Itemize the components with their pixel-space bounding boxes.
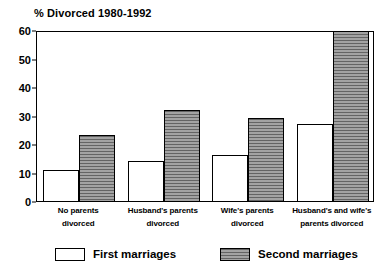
bar-first-marriages[interactable]	[212, 155, 248, 201]
bar-group	[291, 32, 375, 201]
y-axis-tick-label: 60	[19, 26, 31, 37]
legend-swatch-first-marriages	[55, 248, 85, 261]
bar-second-marriages[interactable]	[164, 110, 200, 201]
y-axis-tick-label: 40	[19, 83, 31, 94]
bar-group	[206, 32, 291, 201]
chart-legend: First marriages Second marriages	[36, 243, 374, 265]
bar-second-marriages[interactable]	[248, 118, 284, 201]
plot-area	[36, 31, 374, 202]
y-axis: 0102030405060	[0, 31, 36, 202]
x-axis-category-label: Husband's and wife'sparents divorced	[278, 205, 387, 230]
bar-group	[122, 32, 207, 201]
category-label-line: parents divorced	[278, 218, 387, 231]
y-axis-tick-label: 20	[19, 140, 31, 151]
legend-swatch-second-marriages	[220, 248, 250, 261]
legend-label-second-marriages: Second marriages	[258, 248, 358, 260]
bar-second-marriages[interactable]	[79, 135, 115, 201]
bar-first-marriages[interactable]	[128, 161, 164, 201]
legend-item-first-marriages[interactable]: First marriages	[55, 248, 176, 261]
chart-title: % Divorced 1980-1992	[34, 7, 152, 19]
legend-item-second-marriages[interactable]: Second marriages	[220, 248, 358, 261]
bar-second-marriages[interactable]	[333, 31, 369, 201]
y-axis-tick-label: 50	[19, 54, 31, 65]
y-axis-tick-label: 30	[19, 111, 31, 122]
category-label-line: Husband's and wife's	[278, 205, 387, 218]
legend-label-first-marriages: First marriages	[93, 248, 176, 260]
x-axis-category-labels: No parentsdivorcedHusband's parentsdivor…	[36, 205, 374, 237]
bar-group	[37, 32, 122, 201]
bar-first-marriages[interactable]	[297, 124, 333, 201]
divorce-rate-bar-chart: % Divorced 1980-1992 0102030405060 No pa…	[0, 0, 388, 271]
y-axis-tick-label: 10	[19, 168, 31, 179]
bar-first-marriages[interactable]	[43, 170, 79, 201]
